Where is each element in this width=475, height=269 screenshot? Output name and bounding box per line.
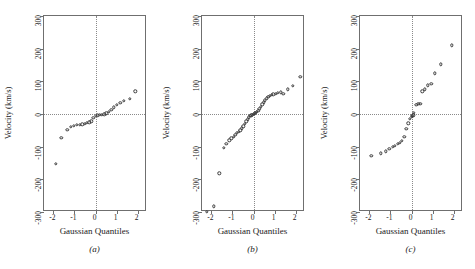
y-tick-a-4	[40, 81, 44, 82]
data-point	[282, 92, 285, 95]
data-point	[411, 114, 414, 117]
data-point	[110, 108, 113, 111]
data-point	[128, 97, 131, 100]
data-point	[291, 84, 294, 87]
y-tick-b-1	[198, 179, 202, 180]
y-tick-label-b-2: -100	[193, 146, 201, 160]
data-point	[423, 87, 426, 90]
y-tick-b-2	[198, 147, 202, 148]
plot-area-a	[43, 15, 146, 211]
y-tick-c-1	[356, 179, 360, 180]
y-tick-a-1	[40, 179, 44, 180]
data-point	[112, 106, 115, 109]
x-tick-label-a-4: 2	[135, 213, 139, 223]
x-tick-labels-b: -2-1012	[201, 213, 304, 225]
data-point	[119, 101, 122, 104]
panel-caption-c: (c)	[359, 244, 462, 254]
data-point	[243, 122, 246, 125]
x-tick-label-c-2: 0	[409, 213, 413, 223]
data-point	[212, 204, 215, 207]
data-point	[379, 151, 382, 154]
data-point	[90, 119, 93, 122]
data-point	[439, 63, 442, 66]
y-tick-b-3	[198, 114, 202, 115]
data-point	[400, 139, 403, 142]
y-tick-a-2	[40, 147, 44, 148]
y-tick-label-a-1: -200	[35, 178, 43, 192]
data-point	[218, 172, 221, 175]
qq-plot-figure: Velocity (km/s) -300-200-1000100200300 -…	[0, 0, 475, 269]
y-tick-c-3	[356, 114, 360, 115]
y-tick-label-b-0: -300	[193, 211, 201, 225]
data-point	[122, 99, 125, 102]
y-tick-b-6	[198, 16, 202, 17]
data-point	[134, 89, 137, 92]
data-point	[298, 75, 301, 78]
x-tick-label-c-0: -2	[365, 213, 371, 223]
x-tick-label-b-0: -2	[207, 213, 213, 223]
x-tick-label-a-1: -1	[70, 213, 76, 223]
x-tick-label-c-4: 2	[451, 213, 455, 223]
x-tick-label-b-2: 0	[251, 213, 255, 223]
data-point	[433, 72, 436, 75]
y-tick-a-6	[40, 16, 44, 17]
panel-caption-b: (b)	[201, 244, 304, 254]
data-point	[384, 150, 387, 153]
x-tick-label-b-3: 1	[272, 213, 276, 223]
y-tick-label-c-2: -100	[351, 146, 359, 160]
data-point	[430, 82, 433, 85]
y-tick-label-b-1: -200	[193, 178, 201, 192]
x-tick-label-b-1: -1	[228, 213, 234, 223]
data-point	[222, 146, 225, 149]
y-tick-a-5	[40, 49, 44, 50]
y-tick-b-4	[198, 81, 202, 82]
data-point	[405, 127, 408, 130]
y-tick-c-4	[356, 81, 360, 82]
x-tick-label-a-3: 1	[114, 213, 118, 223]
y-tick-a-3	[40, 114, 44, 115]
x-axis-title-b: Gaussian Quantiles	[201, 226, 304, 236]
data-point	[419, 102, 422, 105]
data-point	[369, 154, 372, 157]
panel-b: Velocity (km/s) -300-200-1000100200300 -…	[158, 0, 316, 269]
y-tick-c-5	[356, 49, 360, 50]
y-tick-label-a-0: -300	[35, 211, 43, 225]
x-tick-label-a-2: 0	[93, 213, 97, 223]
panel-a: Velocity (km/s) -300-200-1000100200300 -…	[0, 0, 158, 269]
data-point	[259, 105, 262, 108]
x-axis-title-c: Gaussian Quantiles	[359, 226, 462, 236]
data-point	[60, 136, 63, 139]
y-tick-label-a-2: -100	[35, 146, 43, 160]
data-point	[54, 162, 57, 165]
y-tick-label-c-1: -200	[351, 178, 359, 192]
data-point	[450, 44, 453, 47]
data-point	[406, 121, 409, 124]
y-tick-c-6	[356, 16, 360, 17]
x-tick-label-c-3: 1	[430, 213, 434, 223]
x-tick-label-b-4: 2	[293, 213, 297, 223]
data-point	[402, 135, 405, 138]
panel-caption-a: (a)	[43, 244, 146, 254]
x-tick-labels-a: -2-1012	[43, 213, 146, 225]
x-tick-labels-c: -2-1012	[359, 213, 462, 225]
y-tick-labels-a: -300-200-1000100200300	[0, 15, 41, 211]
y-tick-label-c-0: -300	[351, 211, 359, 225]
y-tick-labels-c: -300-200-1000100200300	[316, 15, 357, 211]
data-point	[286, 87, 289, 90]
plot-area-c	[359, 15, 462, 211]
data-point	[65, 128, 68, 131]
data-point	[242, 125, 245, 128]
y-tick-b-5	[198, 49, 202, 50]
data-point	[224, 142, 227, 145]
x-tick-label-a-0: -2	[49, 213, 55, 223]
plot-area-b	[201, 15, 304, 211]
y-tick-c-2	[356, 147, 360, 148]
x-tick-label-c-1: -1	[386, 213, 392, 223]
y-tick-labels-b: -300-200-1000100200300	[158, 15, 199, 211]
panel-c: Velocity (km/s) -300-200-1000100200300 -…	[316, 0, 474, 269]
x-axis-title-a: Gaussian Quantiles	[43, 226, 146, 236]
